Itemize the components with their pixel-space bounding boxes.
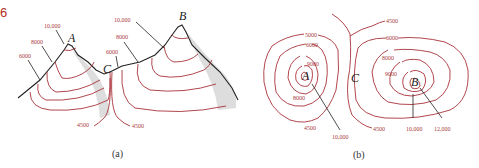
point-b-map: B (411, 75, 419, 89)
label-b-10000: 10,000 (114, 17, 131, 23)
label-b-right-9000: 9000 (385, 71, 397, 77)
label-a-6000: 6000 (19, 53, 31, 59)
point-c: C (103, 62, 112, 76)
label-b-left-4500: 4500 (304, 125, 316, 131)
point-c-map: C (351, 71, 360, 85)
contour-4500-top (350, 21, 385, 36)
label-base-right-4500: 4500 (132, 123, 144, 129)
label-b-right-8000: 8000 (382, 55, 394, 61)
label-base-left-4500: 4500 (77, 122, 89, 128)
label-b-top-4500: 4500 (386, 18, 398, 24)
label-b-8000: 8000 (116, 34, 128, 40)
point-a-map: A (301, 69, 310, 83)
label-b-left-9000: 9000 (307, 61, 319, 67)
point-b: B (179, 9, 187, 23)
point-a: A (67, 31, 76, 45)
label-b-left-6000: 6000 (306, 42, 318, 48)
label-b-left-8000: 8000 (293, 95, 305, 101)
label-b-right-10000: 10,000 (406, 126, 423, 132)
label-b-left-10000: 10,000 (332, 134, 349, 140)
label-b-left-5000: 5000 (305, 32, 317, 38)
panel-a: 10,000 8000 6000 10,000 8000 6000 4500 4… (18, 9, 238, 160)
panel-b: 5000 6000 9000 8000 4500 10,000 4500 600… (264, 14, 469, 161)
label-a-10000: 10,000 (44, 23, 61, 29)
label-saddle-6000: 6000 (106, 49, 118, 55)
label-b-right-6000: 6000 (386, 35, 398, 41)
caption-b: (b) (353, 149, 365, 161)
label-arrows-a (28, 22, 164, 80)
label-b-right-12000: 12,000 (434, 126, 451, 132)
label-a-8000: 8000 (31, 39, 43, 45)
caption-a: (a) (112, 148, 123, 160)
label-b-bottom-4500: 4500 (373, 126, 385, 132)
contour-figure: 10,000 8000 6000 10,000 8000 6000 4500 4… (0, 0, 479, 168)
